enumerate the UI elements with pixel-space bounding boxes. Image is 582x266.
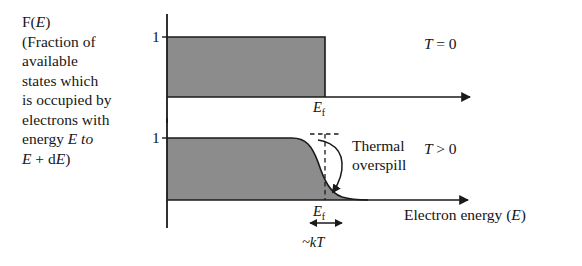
occupied-region-a-fill	[167, 37, 325, 97]
panel-t-greater-zero	[162, 118, 468, 228]
fermi-dirac-diagram: F(E) (Fraction of available states which…	[0, 0, 582, 266]
occupied-region-b-fill	[167, 138, 368, 200]
diagram-svg	[0, 0, 582, 266]
panel-t-equals-zero	[162, 14, 470, 123]
